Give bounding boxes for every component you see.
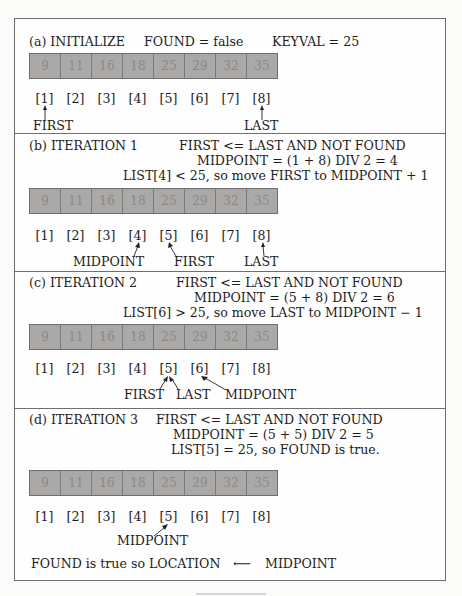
pointer-label-first: FIRST [33,119,73,133]
pointer-label-midpoint: MIDPOINT [225,388,296,402]
assign-arrow-icon: ⟵ [233,557,251,571]
pointer-label-last: LAST [244,119,279,133]
section-iteration-2: (c) ITERATION 2 FIRST <= LAST AND NOT FO… [15,271,445,408]
binary-search-figure: (a) INITIALIZE FOUND = false KEYVAL = 25… [14,18,446,581]
pointer-label-first: FIRST [174,255,214,269]
pointer-label-last: LAST [244,255,279,269]
conclusion-target: MIDPOINT [265,557,336,571]
section-initialize: (a) INITIALIZE FOUND = false KEYVAL = 25… [15,19,445,133]
pointer-arrows-icon [15,19,447,133]
pointer-label-last: LAST [176,388,211,402]
figure-caption-clipped [196,591,266,596]
section-iteration-1: (b) ITERATION 1 FIRST <= LAST AND NOT FO… [15,133,445,271]
conclusion-text: FOUND is true so LOCATION [31,557,220,571]
pointer-label-first: FIRST [124,388,164,402]
section-iteration-3: (d) ITERATION 3 FIRST <= LAST AND NOT FO… [15,408,445,580]
pointer-label-midpoint: MIDPOINT [73,255,144,269]
pointer-arrows-icon [15,134,447,272]
pointer-label-midpoint: MIDPOINT [117,534,188,548]
